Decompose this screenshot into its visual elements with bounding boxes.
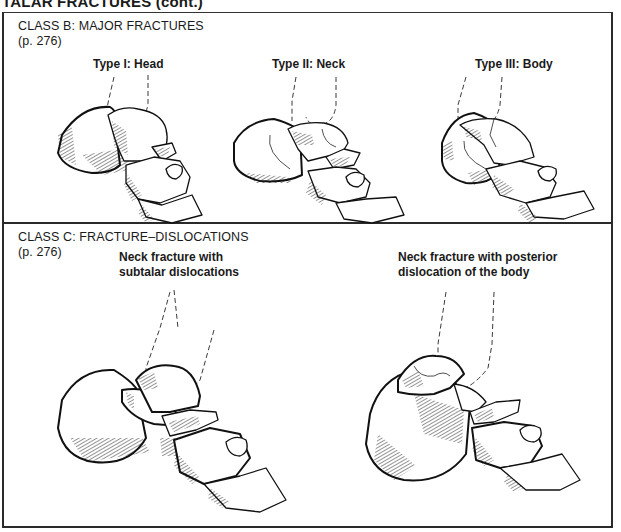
caption-posterior-dislocation: Neck fracture with posterior dislocation… xyxy=(398,250,557,280)
panel-class-c: CLASS C: FRACTURE–DISLOCATIONS (p. 276) … xyxy=(2,224,613,528)
class-b-title: CLASS B: MAJOR FRACTURES xyxy=(18,19,204,34)
caption-line-1: Neck fracture with xyxy=(119,250,239,265)
panel-class-b: CLASS B: MAJOR FRACTURES (p. 276) Type I… xyxy=(2,12,613,224)
talar-neck-fracture-illustration xyxy=(226,65,406,225)
caption-line-2: subtalar dislocations xyxy=(119,265,239,280)
talar-head-fracture-illustration xyxy=(42,65,212,225)
panel-title: CLASS B: MAJOR FRACTURES (p. 276) xyxy=(18,19,204,49)
caption-line-2: dislocation of the body xyxy=(398,265,557,280)
caption-subtalar-dislocation: Neck fracture with subtalar dislocations xyxy=(119,250,239,280)
subtalar-dislocation-illustration xyxy=(50,288,304,524)
page-header: TALAR FRACTURES (cont.) xyxy=(2,0,203,10)
posterior-body-dislocation-illustration xyxy=(354,284,616,524)
caption-line-1: Neck fracture with posterior xyxy=(398,250,557,265)
class-c-title: CLASS C: FRACTURE–DISLOCATIONS xyxy=(18,230,249,245)
talar-body-fracture-illustration xyxy=(434,65,614,225)
class-b-page-ref: (p. 276) xyxy=(18,34,204,49)
